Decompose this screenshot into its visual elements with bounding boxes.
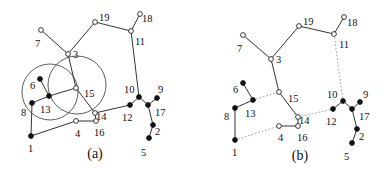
node-label-8: 8 xyxy=(21,107,26,118)
panel-caption-b: (b) xyxy=(292,148,309,164)
node-12 xyxy=(128,103,133,108)
node-11 xyxy=(332,32,337,37)
edge-11-18 xyxy=(131,14,140,31)
edge-17-2 xyxy=(352,109,357,129)
node-7 xyxy=(241,33,246,38)
node-label-2: 2 xyxy=(155,126,160,137)
edge-4-1 xyxy=(31,121,76,136)
edge-11-18 xyxy=(334,17,344,34)
edge-17-2 xyxy=(148,105,153,125)
node-12 xyxy=(331,107,336,112)
edge-13-6 xyxy=(40,79,49,96)
node-label-19: 19 xyxy=(303,16,314,27)
node-11 xyxy=(129,29,134,34)
node-label-2: 2 xyxy=(359,131,364,142)
node-17 xyxy=(350,107,355,112)
node-label-19: 19 xyxy=(99,12,110,23)
node-13 xyxy=(47,94,52,99)
node-19 xyxy=(297,24,302,29)
node-15 xyxy=(277,90,282,95)
node-4 xyxy=(74,119,79,124)
node-8 xyxy=(233,106,238,111)
node-label-3: 3 xyxy=(73,49,78,60)
node-label-10: 10 xyxy=(124,84,135,95)
node-label-7: 7 xyxy=(35,38,40,49)
node-label-14: 14 xyxy=(299,115,310,126)
node-label-17: 17 xyxy=(359,111,370,122)
edge-7-3 xyxy=(243,35,271,59)
node-label-13: 13 xyxy=(245,108,256,119)
dashed-edge-13-15 xyxy=(253,92,279,100)
node-label-15: 15 xyxy=(84,88,95,99)
node-10 xyxy=(341,99,346,104)
node-label-8: 8 xyxy=(224,111,229,122)
node-label-6: 6 xyxy=(233,84,238,95)
edge-1-8 xyxy=(31,103,32,136)
node-label-12: 12 xyxy=(326,116,337,127)
node-label-1: 1 xyxy=(232,147,237,158)
node-label-3: 3 xyxy=(276,54,281,65)
node-3 xyxy=(66,52,71,57)
node-label-5: 5 xyxy=(344,151,349,162)
edge-19-11 xyxy=(299,26,334,34)
node-label-10: 10 xyxy=(327,89,338,100)
dashed-edge-1-4 xyxy=(235,126,279,140)
panel-b: 12345678910111213141516171819(b) xyxy=(224,15,370,164)
node-1 xyxy=(233,138,238,143)
node-label-7: 7 xyxy=(237,43,242,54)
node-label-11: 11 xyxy=(135,36,145,47)
node-4 xyxy=(277,124,282,129)
edge-13-6 xyxy=(243,83,253,100)
node-16 xyxy=(296,124,301,129)
node-18 xyxy=(342,15,347,20)
node-1 xyxy=(29,134,34,139)
panel-caption-a: (a) xyxy=(87,146,103,162)
node-9 xyxy=(155,96,160,101)
node-label-5: 5 xyxy=(141,147,146,158)
node-15 xyxy=(74,86,79,91)
node-17 xyxy=(146,103,151,108)
node-5 xyxy=(147,136,152,141)
node-16 xyxy=(94,119,99,124)
node-6 xyxy=(38,77,43,82)
node-9 xyxy=(358,100,363,105)
node-label-18: 18 xyxy=(142,13,153,24)
graph-diagram-svg: 12345678910111213141516171819(a) 1234567… xyxy=(0,0,389,173)
node-5 xyxy=(350,141,355,146)
node-label-17: 17 xyxy=(155,107,166,118)
node-label-4: 4 xyxy=(75,128,81,139)
graph-figure: 12345678910111213141516171819(a) 1234567… xyxy=(0,0,389,173)
edge-7-3 xyxy=(41,30,68,54)
node-10 xyxy=(137,95,142,100)
node-label-15: 15 xyxy=(288,93,299,104)
node-label-16: 16 xyxy=(94,127,105,138)
node-6 xyxy=(241,81,246,86)
panel-a: 12345678910111213141516171819(a) xyxy=(21,12,166,162)
node-label-9: 9 xyxy=(158,84,163,95)
node-13 xyxy=(251,98,256,103)
node-19 xyxy=(93,20,98,25)
node-label-16: 16 xyxy=(297,132,308,143)
edge-19-11 xyxy=(95,22,131,31)
node-7 xyxy=(39,28,44,33)
edge-13-15 xyxy=(49,88,76,96)
node-label-11: 11 xyxy=(339,39,349,50)
node-label-4: 4 xyxy=(278,132,284,143)
node-label-13: 13 xyxy=(40,104,51,115)
edge-8-13 xyxy=(235,100,253,108)
node-label-9: 9 xyxy=(363,89,368,100)
node-label-12: 12 xyxy=(122,112,133,123)
node-label-18: 18 xyxy=(347,17,358,28)
node-label-6: 6 xyxy=(30,80,35,91)
node-8 xyxy=(30,101,35,106)
node-label-1: 1 xyxy=(28,143,33,154)
node-3 xyxy=(269,57,274,62)
